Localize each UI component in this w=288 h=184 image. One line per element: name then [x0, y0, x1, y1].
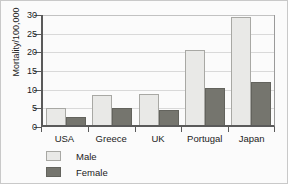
x-axis-label-usa: USA — [41, 133, 88, 147]
legend-item-male: Male — [46, 149, 108, 163]
x-axis-tick — [274, 127, 275, 132]
legend-label-female: Female — [76, 167, 108, 178]
x-axis-label-uk: UK — [135, 133, 182, 147]
y-axis-tick-label: 15 — [15, 66, 37, 76]
legend-label-male: Male — [76, 151, 97, 162]
bar-chart-figure: Mortality/100,000 051015202530 USAGreece… — [0, 0, 288, 184]
legend: MaleFemale — [46, 149, 108, 181]
bar-group — [89, 15, 135, 125]
bar-group — [43, 15, 89, 125]
y-axis-tick-label: 30 — [15, 10, 37, 20]
x-axis-label-portugal: Portugal — [181, 133, 228, 147]
legend-swatch-male — [46, 151, 61, 161]
bar-japan-male — [231, 17, 251, 125]
plot-area — [41, 15, 275, 127]
bar-group — [182, 15, 228, 125]
legend-item-female: Female — [46, 165, 108, 179]
x-axis-tick — [181, 127, 182, 132]
bar-groups — [43, 15, 274, 125]
bar-group — [228, 15, 274, 125]
bar-greece-male — [92, 95, 112, 125]
bar-uk-female — [159, 110, 179, 125]
x-axis-tick — [88, 127, 89, 132]
bar-greece-female — [112, 108, 132, 125]
x-axis-tick — [135, 127, 136, 132]
bar-usa-female — [66, 117, 86, 125]
x-axis-tick — [228, 127, 229, 132]
x-axis-tick — [41, 127, 42, 132]
bar-japan-female — [251, 82, 271, 125]
x-axis-label-greece: Greece — [88, 133, 135, 147]
y-axis-tick-label: 10 — [15, 85, 37, 95]
legend-swatch-female — [46, 167, 61, 177]
y-axis-tick-label: 5 — [15, 103, 37, 113]
y-axis-tick-label: 25 — [15, 29, 37, 39]
bar-portugal-female — [205, 88, 225, 125]
x-axis-label-japan: Japan — [228, 133, 275, 147]
y-axis-tick-label: 20 — [15, 47, 37, 57]
y-axis-tick-label: 0 — [15, 122, 37, 132]
bar-usa-male — [46, 108, 66, 125]
bar-portugal-male — [185, 50, 205, 125]
bar-group — [135, 15, 181, 125]
x-axis-labels: USAGreeceUKPortugalJapan — [41, 133, 275, 147]
bar-uk-male — [139, 94, 159, 125]
